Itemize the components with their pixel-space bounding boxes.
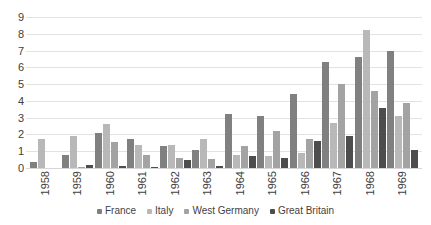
bar — [273, 131, 280, 168]
bar-group — [354, 17, 387, 168]
bar — [355, 57, 362, 168]
bar — [143, 155, 150, 168]
x-tick-label: 1967 — [332, 171, 343, 195]
y-tick-label-0: 0 — [2, 163, 24, 174]
bar — [184, 160, 191, 168]
x-tick: 1965 — [257, 169, 290, 205]
x-tick-label: 1961 — [137, 171, 148, 195]
bar — [371, 91, 378, 168]
x-tick-label: 1960 — [105, 171, 116, 195]
x-tick-label: 1966 — [300, 171, 311, 195]
y-tick-label-5: 5 — [2, 79, 24, 90]
bar — [86, 165, 93, 168]
bar — [103, 124, 110, 168]
bar — [257, 116, 264, 168]
legend-label: Great Britain — [278, 206, 334, 216]
bar — [111, 142, 118, 168]
bar — [70, 136, 77, 168]
bar — [387, 51, 394, 168]
y-tick-label-9: 9 — [2, 12, 24, 23]
bar-group — [62, 17, 95, 168]
x-tick-label: 1959 — [72, 171, 83, 195]
bar-group — [387, 17, 420, 168]
bar — [62, 155, 69, 168]
legend-swatch-icon — [97, 209, 102, 214]
bar — [119, 166, 126, 168]
bar — [403, 103, 410, 168]
x-tick: 1961 — [127, 169, 160, 205]
y-tick-label-4: 4 — [2, 95, 24, 106]
x-tick: 1969 — [387, 169, 420, 205]
bar — [330, 123, 337, 168]
x-tick: 1964 — [224, 169, 257, 205]
bar — [192, 150, 199, 168]
x-tick: 1963 — [192, 169, 225, 205]
x-tick-label: 1962 — [170, 171, 181, 195]
bar — [200, 139, 207, 168]
bar — [216, 166, 223, 168]
legend-item-great-britain[interactable]: Great Britain — [270, 206, 334, 216]
bar — [168, 145, 175, 168]
legend-item-france[interactable]: France — [97, 206, 136, 216]
y-tick-label-6: 6 — [2, 62, 24, 73]
bar — [314, 141, 321, 168]
bar — [281, 158, 288, 168]
bar — [151, 167, 158, 168]
legend-label: Italy — [155, 206, 173, 216]
bar-group — [29, 17, 62, 168]
x-tick: 1967 — [322, 169, 355, 205]
x-tick-label: 1964 — [235, 171, 246, 195]
x-tick: 1960 — [94, 169, 127, 205]
bar — [160, 146, 167, 168]
bar-group — [159, 17, 192, 168]
plot-area — [26, 17, 422, 168]
legend-item-west-germany[interactable]: West Germany — [184, 206, 259, 216]
chart-legend: FranceItalyWest GermanyGreat Britain — [0, 206, 431, 216]
bar-groups — [26, 17, 422, 168]
bar-group — [192, 17, 225, 168]
bar — [306, 139, 313, 168]
bar — [265, 156, 272, 168]
x-tick-label: 1969 — [397, 171, 408, 195]
bar — [411, 150, 418, 168]
bar — [241, 146, 248, 168]
x-tick: 1968 — [354, 169, 387, 205]
bar — [346, 136, 353, 168]
bar — [379, 108, 386, 168]
y-tick-label-1: 1 — [2, 146, 24, 157]
legend-label: France — [105, 206, 136, 216]
bar — [38, 139, 45, 168]
x-tick-label: 1958 — [40, 171, 51, 195]
x-tick: 1958 — [29, 169, 62, 205]
bar — [290, 94, 297, 168]
bar-group — [322, 17, 355, 168]
bar — [208, 159, 215, 168]
bar-group — [289, 17, 322, 168]
bar — [363, 30, 370, 168]
x-tick: 1959 — [62, 169, 95, 205]
y-tick-label-7: 7 — [2, 45, 24, 56]
legend-swatch-icon — [147, 209, 152, 214]
x-tick-label: 1965 — [267, 171, 278, 195]
bar-group — [257, 17, 290, 168]
bar — [249, 156, 256, 168]
bar-group — [94, 17, 127, 168]
y-tick-label-3: 3 — [2, 112, 24, 123]
y-axis: 0123456789 — [0, 17, 24, 168]
x-tick-label: 1963 — [202, 171, 213, 195]
bar-chart: 0123456789 19581959196019611962196319641… — [0, 0, 431, 225]
bar — [78, 167, 85, 168]
bar — [322, 62, 329, 168]
legend-swatch-icon — [270, 209, 275, 214]
bar — [225, 114, 232, 168]
bar — [338, 84, 345, 168]
bar — [395, 116, 402, 168]
bar-group — [224, 17, 257, 168]
x-tick: 1966 — [289, 169, 322, 205]
legend-item-italy[interactable]: Italy — [147, 206, 173, 216]
bar — [176, 158, 183, 168]
bar — [30, 162, 37, 168]
x-axis: 1958195919601961196219631964196519661967… — [26, 169, 422, 205]
y-tick-label-8: 8 — [2, 28, 24, 39]
x-tick-label: 1968 — [365, 171, 376, 195]
